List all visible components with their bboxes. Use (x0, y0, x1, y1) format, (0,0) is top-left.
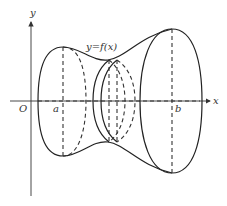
curve-lower (63, 142, 172, 173)
curve-label: y=f(x) (85, 41, 117, 52)
origin-label: O (19, 103, 27, 114)
a-label: a (53, 103, 59, 114)
curve-upper (63, 29, 172, 60)
y-axis-label: y (29, 7, 36, 18)
x-axis-label: x (213, 95, 219, 106)
solid-of-revolution-diagram: y x O a b y=f(x) (0, 0, 227, 206)
b-label: b (175, 103, 181, 114)
